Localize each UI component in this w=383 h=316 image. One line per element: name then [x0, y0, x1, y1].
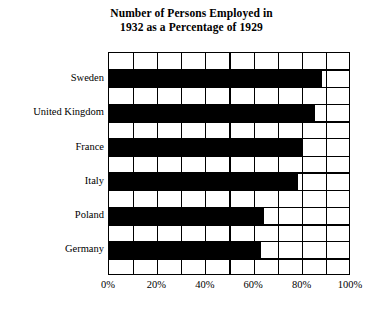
bar-italy	[109, 173, 298, 190]
bar-poland	[109, 207, 264, 224]
x-axis-tick-60pct: 60%	[244, 278, 263, 291]
x-axis-tick-100pct: 100%	[338, 278, 363, 291]
x-axis-tick-0pct: 0%	[101, 278, 115, 291]
bar-sweden	[109, 70, 322, 87]
y-axis-category-labels: Sweden United Kingdom France Italy Polan…	[0, 52, 104, 275]
y-axis-label-germany: Germany	[2, 243, 104, 254]
y-axis-label-italy: Italy	[2, 175, 104, 186]
bar-germany	[109, 242, 261, 259]
bar-united-kingdom	[109, 104, 315, 121]
bar-france	[109, 139, 303, 156]
x-axis-tick-20pct: 20%	[147, 278, 166, 291]
chart-title: Number of Persons Employed in 1932 as a …	[0, 6, 383, 34]
y-axis-label-united-kingdom: United Kingdom	[2, 106, 104, 117]
x-axis-tick-80pct: 80%	[292, 278, 311, 291]
plot-area	[108, 52, 350, 275]
y-axis-label-sweden: Sweden	[2, 72, 104, 83]
chart-title-line-1: Number of Persons Employed in	[0, 6, 383, 20]
y-axis-label-poland: Poland	[2, 209, 104, 220]
bars-layer	[109, 53, 349, 274]
chart-title-line-2: 1932 as a Percentage of 1929	[0, 20, 383, 34]
x-axis-tick-labels: 0%20%40%60%80%100%	[0, 278, 383, 296]
y-axis-label-france: France	[2, 141, 104, 152]
x-axis-tick-40pct: 40%	[195, 278, 214, 291]
